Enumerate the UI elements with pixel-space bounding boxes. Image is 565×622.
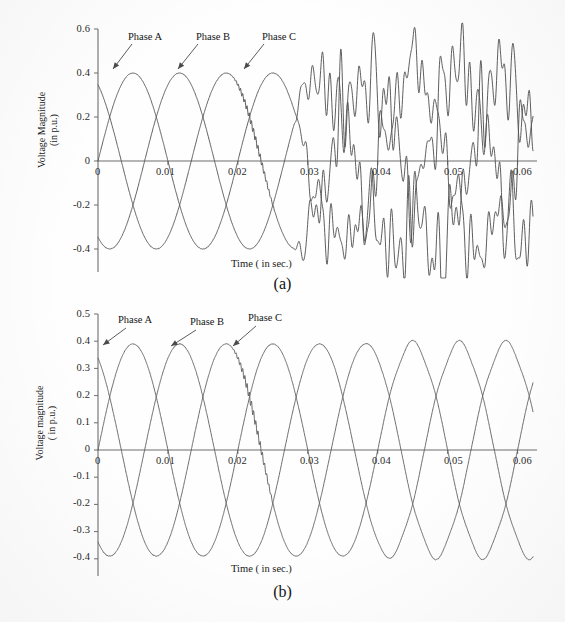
y-axis-title-line2: ( in p.u.) <box>46 406 57 440</box>
x-tick-label: 0.03 <box>300 166 319 177</box>
x-tick-label: 0 <box>95 166 100 177</box>
y-tick-label: -0.2 <box>48 497 90 508</box>
y-tick-label: 0.1 <box>52 416 90 427</box>
y-axis-title-line2: (in p.u.) <box>48 114 59 146</box>
y-tick-label: -0.3 <box>48 524 90 535</box>
x-axis-title-a: Time ( in sec.) <box>231 258 292 269</box>
x-tick-label: 0.04 <box>372 455 391 466</box>
scanned-page: 0.6 0.4 0.2 0 -0.2 -0.4 0 0.01 0.02 0.03… <box>0 0 565 622</box>
y-axis-title-line1: Voltage magnitude <box>34 385 45 460</box>
annotation-phase-b: Phase B <box>196 31 230 42</box>
figure-b: 0.5 0.4 0.3 0.2 0.1 0 -0.1 -0.2 -0.3 -0.… <box>0 298 565 622</box>
y-tick-label: 0.6 <box>54 23 90 34</box>
x-tick-label: 0.02 <box>228 455 247 466</box>
y-tick-label: 0.4 <box>52 335 90 346</box>
x-tick-label: 0.02 <box>228 166 247 177</box>
x-tick-label: 0 <box>95 455 100 466</box>
annotation-phase-a: Phase A <box>118 314 152 325</box>
annotation-phase-a: Phase A <box>128 31 162 42</box>
x-axis-title-b: Time ( in sec.) <box>231 563 292 574</box>
x-tick-label: 0.01 <box>156 455 175 466</box>
y-axis-title-a: Voltage Magnitude (in p.u.) <box>36 55 59 205</box>
x-tick-label: 0.04 <box>372 166 391 177</box>
x-tick-label: 0.03 <box>300 455 319 466</box>
y-tick-label: 0 <box>54 155 90 166</box>
y-tick-label: 0.2 <box>54 111 90 122</box>
figure-caption-b: (b) <box>0 583 565 601</box>
annotation-phase-b: Phase B <box>190 316 224 327</box>
x-tick-label: 0.05 <box>444 455 463 466</box>
x-tick-label: 0.06 <box>513 166 532 177</box>
x-tick-label: 0.05 <box>444 166 463 177</box>
annotation-phase-c: Phase C <box>248 312 282 323</box>
y-axis-title-line1: Voltage Magnitude <box>36 92 47 168</box>
y-tick-label: 0 <box>52 443 90 454</box>
y-tick-label: 0.3 <box>52 362 90 373</box>
y-tick-label: 0.2 <box>52 389 90 400</box>
annotation-phase-c: Phase C <box>262 31 296 42</box>
y-tick-label: 0.4 <box>54 67 90 78</box>
y-tick-label: -0.4 <box>50 243 90 254</box>
y-tick-label: -0.4 <box>48 551 90 562</box>
y-axis-title-b: Voltage magnitude ( in p.u.) <box>34 348 57 498</box>
x-tick-label: 0.06 <box>513 455 532 466</box>
x-tick-label: 0.01 <box>156 166 175 177</box>
figure-a: 0.6 0.4 0.2 0 -0.2 -0.4 0 0.01 0.02 0.03… <box>0 0 565 305</box>
y-tick-label: 0.5 <box>52 308 90 319</box>
figure-caption-a: (a) <box>0 275 565 293</box>
